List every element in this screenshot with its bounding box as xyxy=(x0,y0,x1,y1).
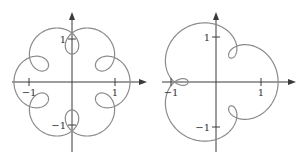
x-tick-label: −1 xyxy=(164,87,179,98)
x-axis-arrow-icon xyxy=(139,79,147,85)
chart-figure: −111−1 −111−1 xyxy=(0,0,303,156)
y-axis-arrow-icon xyxy=(69,12,75,20)
y-tick-label: −1 xyxy=(51,120,66,131)
x-axis-arrow-icon xyxy=(288,79,296,85)
plot-right: −111−1 xyxy=(162,12,296,152)
y-tick-label: 1 xyxy=(204,32,210,43)
y-tick-label: −1 xyxy=(195,122,210,133)
plot-left: −111−1 xyxy=(12,12,147,152)
x-tick-label: 1 xyxy=(112,87,118,98)
x-tick-label: 1 xyxy=(258,87,264,98)
y-axis-arrow-icon xyxy=(213,12,219,20)
x-tick-label: −1 xyxy=(22,87,37,98)
y-tick-label: 1 xyxy=(60,34,66,45)
